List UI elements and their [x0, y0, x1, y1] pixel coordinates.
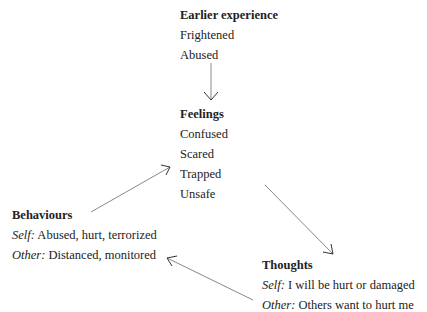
node-item: Confused: [180, 124, 228, 144]
node-line-other: Other: Distanced, monitored: [12, 245, 157, 265]
node-behaviours: Behaviours Self: Abused, hurt, terrorize…: [12, 205, 157, 265]
node-line-self: Self: I will be hurt or damaged: [262, 275, 415, 295]
line-text: Abused, hurt, terrorized: [35, 228, 157, 242]
node-title: Behaviours: [12, 205, 157, 225]
line-label: Self:: [262, 278, 285, 292]
node-title: Feelings: [180, 104, 228, 124]
arrow-earlier-to-feelings: [204, 63, 218, 100]
line-text: I will be hurt or damaged: [285, 278, 415, 292]
line-label: Other:: [262, 298, 295, 312]
node-thoughts: Thoughts Self: I will be hurt or damaged…: [262, 255, 415, 312]
arrow-feelings-to-thoughts: [265, 185, 333, 254]
node-item: Frightened: [180, 25, 278, 45]
node-item: Trapped: [180, 164, 228, 184]
line-label: Self:: [12, 228, 35, 242]
node-earlier-experience: Earlier experience Frightened Abused: [180, 5, 278, 65]
node-title: Thoughts: [262, 255, 415, 275]
arrow-thoughts-to-behaviours: [167, 256, 253, 300]
node-item: Unsafe: [180, 184, 228, 204]
node-feelings: Feelings Confused Scared Trapped Unsafe: [180, 104, 228, 204]
node-line-self: Self: Abused, hurt, terrorized: [12, 225, 157, 245]
node-line-other: Other: Others want to hurt me: [262, 295, 415, 312]
node-title: Earlier experience: [180, 5, 278, 25]
line-text: Distanced, monitored: [45, 248, 156, 262]
node-item: Abused: [180, 45, 278, 65]
line-text: Others want to hurt me: [295, 298, 413, 312]
node-item: Scared: [180, 144, 228, 164]
line-label: Other:: [12, 248, 45, 262]
